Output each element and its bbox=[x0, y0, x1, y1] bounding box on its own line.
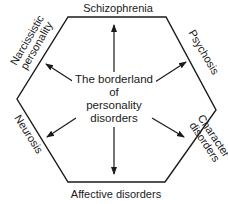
arrow-lower-right bbox=[152, 118, 184, 137]
label-affective-disorders: Affective disorders bbox=[64, 188, 168, 200]
label-schizophrenia: Schizophrenia bbox=[80, 2, 156, 14]
arrow-upper-left bbox=[46, 64, 74, 82]
center-line-1: The borderland bbox=[72, 73, 156, 86]
arrow-upper-right bbox=[155, 62, 186, 82]
center-label: The borderland of personality disorders bbox=[72, 73, 156, 125]
center-line-3: personality bbox=[82, 99, 146, 112]
center-line-4: disorders bbox=[87, 112, 141, 125]
center-line-2: of bbox=[104, 86, 124, 99]
